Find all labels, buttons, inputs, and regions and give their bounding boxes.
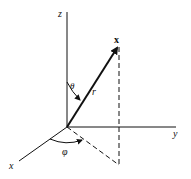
x-axis [19, 127, 67, 161]
y-axis-label: y [172, 128, 178, 139]
theta-label: θ [70, 81, 75, 91]
phi-arc [50, 139, 82, 143]
phi-label: φ [62, 146, 68, 157]
xy-plane-projection [67, 127, 119, 165]
z-axis-label: z [57, 8, 62, 19]
vector-length-label: r [92, 86, 96, 97]
point-label: x [114, 34, 119, 45]
x-axis-label: x [8, 160, 14, 171]
spherical-coordinates-diagram: z y x x r θ φ [0, 0, 191, 179]
